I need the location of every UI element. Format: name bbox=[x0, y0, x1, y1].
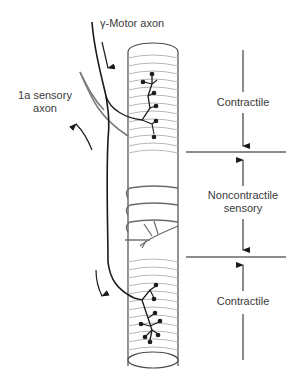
motor-direction-arrow-bottom bbox=[96, 270, 102, 296]
sensory-axon-label-line1: 1a sensory bbox=[14, 89, 76, 102]
motor-direction-arrow-top bbox=[102, 42, 108, 68]
region-middle-label-line1: Noncontractile bbox=[200, 189, 286, 202]
region-top-label: Contractile bbox=[208, 96, 278, 109]
sensory-axon-label-line2: axon bbox=[14, 102, 76, 115]
region-middle-label: Noncontractile sensory bbox=[200, 189, 286, 215]
gamma-motor-axon-label: γ-Motor axon bbox=[100, 17, 164, 30]
sensory-axon bbox=[80, 72, 128, 136]
sensory-branching bbox=[140, 221, 178, 248]
fiber-top-cap bbox=[128, 43, 178, 52]
sensory-axon-inner bbox=[80, 72, 104, 110]
region-middle-label-line2: sensory bbox=[200, 202, 286, 215]
striations-bottom bbox=[128, 259, 178, 350]
annulospiral-ending bbox=[125, 186, 178, 240]
fiber-bottom-cap bbox=[128, 352, 178, 368]
sensory-axon-label: 1a sensory axon bbox=[14, 89, 76, 115]
region-bottom-label: Contractile bbox=[208, 295, 278, 308]
sensory-direction-arrow bbox=[76, 124, 92, 150]
